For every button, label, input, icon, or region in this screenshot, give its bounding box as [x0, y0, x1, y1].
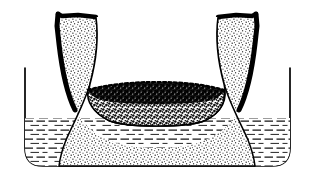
technical-illustration — [0, 0, 314, 183]
figure-root — [0, 0, 314, 183]
vessel-right-rim-top — [218, 14, 256, 17]
granular-bed — [88, 82, 225, 126]
vessel-left-rim-top — [58, 14, 96, 17]
